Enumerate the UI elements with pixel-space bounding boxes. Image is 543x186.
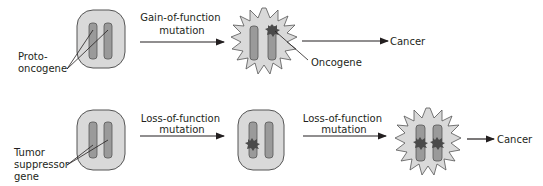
tumor-suppressor-label: Tumor suppressor gene <box>13 147 72 182</box>
cancer-cell-oncogene <box>231 8 297 74</box>
loss-of-function-label-1: Loss-of-function mutation <box>141 113 223 135</box>
normal-cell-proto-oncogene <box>77 10 125 68</box>
proto-oncogene-label: Proto- oncogene <box>18 51 67 74</box>
loss-of-function-label-2: Loss-of-function mutation <box>303 113 385 135</box>
cancer-cell-two-mutations <box>395 108 461 175</box>
gain-of-function-label: Gain-of-function mutation <box>140 12 224 36</box>
top-cancer-label: Cancer <box>390 36 426 47</box>
oncogene-tumor-suppressor-diagram: Proto- oncogene Gain-of-function mutatio… <box>0 0 543 186</box>
oncogene-label: Oncogene <box>311 57 362 68</box>
normal-cell-tumor-suppressor <box>77 110 125 170</box>
bottom-cancer-label: Cancer <box>497 134 533 145</box>
intermediate-cell-one-mutation <box>238 110 284 170</box>
